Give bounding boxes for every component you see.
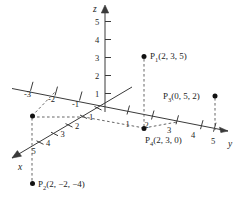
z-ticklabel-4: 4: [95, 35, 100, 45]
z-ticklabel-5: 5: [95, 17, 99, 27]
p4-to-x-axis-projection: [84, 117, 144, 128]
point-marker-p2-foot[interactable]: [30, 114, 35, 119]
z-axis-ticks: 5 4 3 2 1 z: [92, 4, 111, 99]
projection-lines: [32, 59, 215, 183]
z-ticklabel-2: 2: [95, 71, 99, 81]
point-label-p1: P1(2, 3, 5): [150, 51, 187, 63]
y-axis-negative-ticks: -1 -2 -3: [24, 82, 82, 109]
y-tick-neg2: [55, 87, 58, 96]
point-label-p4: P4(2, 3, 0): [145, 135, 182, 147]
y-axis-arrowhead: [220, 127, 229, 132]
point-label-p2: P2(2, −2, −4): [38, 179, 85, 191]
point-label-p3-coords: (0, 5, 2): [171, 91, 200, 101]
y-ticklabel-4: 4: [191, 130, 196, 140]
x-ticklabel-2: 2: [75, 121, 79, 131]
y-tick-4: [201, 120, 204, 129]
x-axis-label: x: [17, 162, 23, 172]
x-axis-arrowhead: [12, 151, 22, 158]
point-label-p2-coords: (2, −2, −4): [46, 179, 85, 189]
point-label-p3: P3(0, 5, 2): [163, 91, 200, 103]
y-ticklabel-1: 1: [126, 119, 130, 129]
y-tick-3: [176, 115, 179, 124]
y-ticklabel-5: 5: [211, 136, 215, 146]
point-label-p1-coords: (2, 3, 5): [158, 51, 187, 61]
y-ticklabel-3: 3: [167, 125, 171, 135]
y-ticklabel-neg3: -3: [24, 89, 31, 99]
z-ticklabel-3: 3: [95, 53, 99, 63]
point-marker-p1[interactable]: [142, 54, 147, 59]
y-tick-neg1: [80, 92, 83, 101]
x-ticklabel-1: 1: [89, 112, 93, 122]
x-ticklabel-3: 3: [61, 129, 65, 139]
z-axis-label: z: [92, 4, 97, 14]
p4-to-y-axis-projection: [144, 122, 177, 128]
axis-group: [12, 5, 228, 158]
point-marker-p4[interactable]: [142, 126, 147, 131]
y-tick-2: [152, 111, 155, 120]
y-ticklabel-neg2: -2: [48, 94, 55, 104]
point-marker-p3[interactable]: [213, 94, 218, 99]
x-ticklabel-4: 4: [46, 138, 51, 148]
point-markers: [30, 54, 218, 186]
z-axis-arrowhead: [101, 5, 108, 13]
point-marker-p2[interactable]: [30, 181, 35, 186]
y-ticklabel-neg1: -1: [72, 99, 79, 109]
coordinate-system-figure: 5 4 3 2 1 z 1 2 3 4 5 y -1 -2: [0, 0, 251, 206]
y-tick-1: [127, 106, 130, 115]
z-ticklabel-1: 1: [95, 89, 99, 99]
point-label-p4-coords: (2, 3, 0): [153, 135, 182, 145]
y-axis-label: y: [227, 139, 233, 149]
x-axis-ticks: 1 2 3 4 5 x: [17, 107, 102, 173]
